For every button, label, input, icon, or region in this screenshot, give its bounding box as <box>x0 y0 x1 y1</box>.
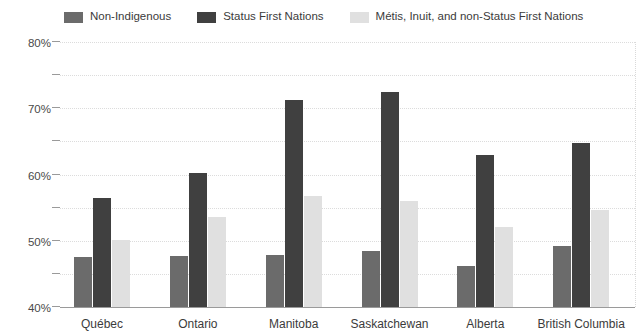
x-axis-category-label: Saskatchewan <box>350 317 428 331</box>
legend-label: Status First Nations <box>223 11 323 23</box>
bar[interactable] <box>93 198 111 307</box>
bar-chart: Non-IndigenousStatus First NationsMétis,… <box>0 0 639 336</box>
bar[interactable] <box>553 246 571 307</box>
bar-group: Alberta <box>443 42 539 307</box>
y-axis-tick-mark <box>52 41 60 42</box>
bar[interactable] <box>457 266 475 307</box>
legend-swatch-icon <box>350 12 369 23</box>
zero-axis-line: 0% <box>60 307 635 308</box>
bar[interactable] <box>400 201 418 307</box>
y-axis-tick-label: 60% <box>28 170 51 182</box>
bar[interactable] <box>362 251 380 307</box>
bar-groups: QuébecOntarioManitobaSaskatchewanAlberta… <box>60 42 635 307</box>
bar-group: British Columbia <box>539 42 635 307</box>
bars-container <box>74 42 130 307</box>
y-axis-tick-mark <box>52 273 60 274</box>
y-axis-tick-label: 50% <box>28 236 51 248</box>
legend-swatch-icon <box>197 12 216 23</box>
y-axis-tick-mark <box>52 240 60 241</box>
bars-container <box>362 42 418 307</box>
legend-item[interactable]: Métis, Inuit, and non-Status First Natio… <box>350 11 584 23</box>
x-axis-category-label: Québec <box>81 317 123 331</box>
chart-legend: Non-IndigenousStatus First NationsMétis,… <box>0 0 639 34</box>
x-axis-category-label: Manitoba <box>269 317 318 331</box>
y-axis-tick-mark <box>52 140 60 141</box>
x-axis-category-label: Alberta <box>466 317 504 331</box>
plot-area: 0%10%20%30%40%50%60%70%80% QuébecOntario… <box>60 42 636 307</box>
y-axis-tick-mark <box>52 74 60 75</box>
legend-swatch-icon <box>64 12 83 23</box>
bar[interactable] <box>189 173 207 307</box>
bars-container <box>553 42 609 307</box>
bar[interactable] <box>266 255 284 307</box>
bars-container <box>170 42 226 307</box>
legend-label: Non-Indigenous <box>90 11 171 23</box>
bar[interactable] <box>170 256 188 307</box>
y-axis-tick-mark <box>52 207 60 208</box>
bar[interactable] <box>572 143 590 307</box>
y-axis-tick-label: 70% <box>28 103 51 115</box>
legend-item[interactable]: Status First Nations <box>197 11 323 23</box>
bars-container <box>457 42 513 307</box>
bar[interactable] <box>74 257 92 307</box>
bar-group: Ontario <box>156 42 252 307</box>
bar[interactable] <box>208 217 226 307</box>
y-axis-tick-mark <box>52 107 60 108</box>
bars-container <box>266 42 322 307</box>
y-axis-tick-label: 80% <box>28 37 51 49</box>
bar[interactable] <box>112 240 130 307</box>
bar[interactable] <box>495 227 513 307</box>
bar-group: Manitoba <box>252 42 348 307</box>
x-axis-category-label: Ontario <box>178 317 217 331</box>
legend-item[interactable]: Non-Indigenous <box>64 11 171 23</box>
bar[interactable] <box>285 100 303 307</box>
x-axis-category-label: British Columbia <box>537 317 624 331</box>
bar[interactable] <box>476 155 494 307</box>
legend-label: Métis, Inuit, and non-Status First Natio… <box>376 11 584 23</box>
bar[interactable] <box>304 196 322 307</box>
bar[interactable] <box>591 210 609 307</box>
bar-group: Saskatchewan <box>348 42 444 307</box>
bar[interactable] <box>381 92 399 307</box>
y-axis-tick-mark <box>52 174 60 175</box>
y-axis-tick-mark <box>52 306 60 307</box>
bar-group: Québec <box>60 42 156 307</box>
y-axis-tick-label: 40% <box>28 302 51 314</box>
